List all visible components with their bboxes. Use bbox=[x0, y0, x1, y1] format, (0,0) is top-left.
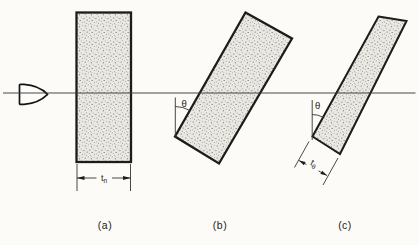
panel-label-b: (b) bbox=[213, 219, 227, 231]
theta-label-c: θ bbox=[315, 100, 320, 111]
tn-arrow-left-icon bbox=[77, 176, 85, 180]
ttheta-arrow-right-icon bbox=[320, 171, 327, 176]
plate-b bbox=[175, 13, 292, 164]
ttheta-extension-line-right bbox=[323, 158, 338, 185]
panel-label-a: (a) bbox=[98, 219, 112, 231]
ttheta-thickness-label: tθ bbox=[308, 157, 319, 170]
ttheta-arrow-left-icon bbox=[299, 161, 306, 166]
armor-obliquity-figure: tn θ θ tθ (a) (b) (c) bbox=[0, 0, 419, 245]
panel-label-c: (c) bbox=[338, 219, 352, 231]
ttheta-extension-line-left bbox=[295, 142, 310, 168]
projectile bbox=[19, 84, 47, 104]
plate-a bbox=[77, 13, 132, 163]
theta-arc-c bbox=[312, 114, 323, 117]
figure-drawing: tn θ θ tθ (a) (b) (c) bbox=[0, 0, 419, 245]
plate-c bbox=[313, 17, 407, 155]
tn-thickness-label: tn bbox=[101, 173, 108, 184]
theta-label-b: θ bbox=[182, 98, 187, 109]
tn-arrow-right-icon bbox=[123, 176, 131, 180]
